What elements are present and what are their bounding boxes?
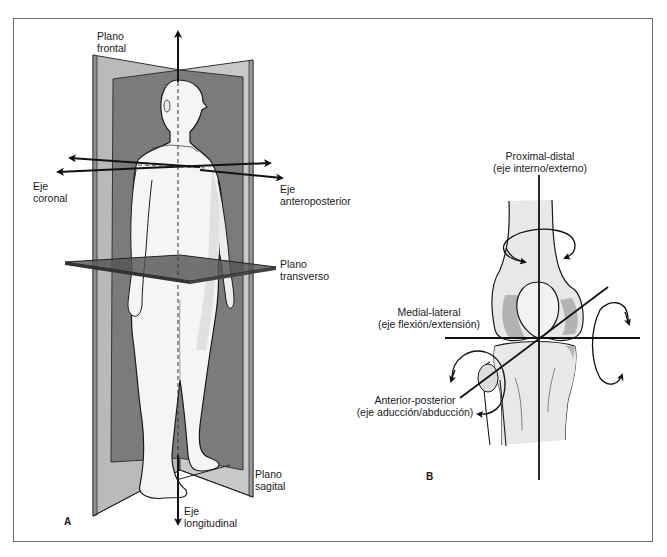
label-anterior-posterior: Anterior-posterior (eje aducción/abducci… — [350, 394, 480, 418]
anatomy-illustration — [0, 0, 667, 557]
label-medial-lateral: Medial-lateral (eje flexión/extensión) — [370, 306, 488, 330]
label-eje-coronal: Eje coronal — [33, 180, 67, 204]
label-plano-sagital: Plano sagital — [255, 468, 285, 492]
label-plano-transverso: Plano transverso — [280, 258, 329, 282]
label-plano-frontal: Plano frontal — [97, 30, 126, 54]
label-eje-anteroposterior: Eje anteroposterior — [280, 183, 351, 207]
knee-joint — [478, 200, 583, 446]
label-proximal-distal: Proximal-distal (eje interno/externo) — [480, 150, 600, 174]
panel-letter-b: B — [426, 471, 433, 482]
label-eje-longitudinal: Eje longitudinal — [184, 505, 237, 529]
panel-letter-a: A — [64, 516, 71, 527]
flexion-extension-arrow — [593, 303, 629, 385]
